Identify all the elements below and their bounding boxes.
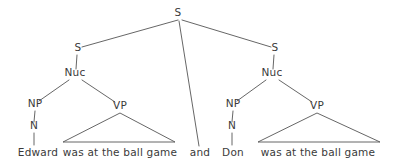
node-right-np: NP xyxy=(226,97,241,109)
node-left-nuc: Nuc xyxy=(65,66,86,78)
right-vp-triangle xyxy=(258,113,380,142)
edge-root-to-left-s xyxy=(82,20,178,47)
terminal-left-subject: Edward xyxy=(18,146,58,158)
edge-right-nuc-to-np xyxy=(237,80,266,101)
terminal-right-subject: Don xyxy=(222,146,244,158)
node-right-vp: VP xyxy=(310,99,324,111)
terminal-left-predicate: was at the ball game xyxy=(63,146,177,158)
node-right-n: N xyxy=(228,119,236,131)
node-left-vp: VP xyxy=(113,99,127,111)
edge-right-nuc-to-vp xyxy=(279,80,312,102)
edge-root-to-conjunction xyxy=(179,21,199,146)
edge-left-nuc-to-vp xyxy=(82,80,115,102)
node-left-s: S xyxy=(75,41,82,53)
edge-root-to-right-s xyxy=(182,20,271,47)
left-vp-triangle xyxy=(63,113,175,142)
node-root-s: S xyxy=(175,6,182,18)
node-right-s: S xyxy=(272,41,279,53)
terminal-right-predicate: was at the ball game xyxy=(261,146,375,158)
edge-left-nuc-to-np xyxy=(39,80,69,101)
terminal-conjunction: and xyxy=(190,146,210,158)
node-left-np: NP xyxy=(28,97,43,109)
syntax-tree-figure: S S Nuc NP N VP S Nuc NP N VP Edward was… xyxy=(0,0,400,168)
node-right-nuc: Nuc xyxy=(262,66,283,78)
syntax-tree-canvas: S S Nuc NP N VP S Nuc NP N VP Edward was… xyxy=(0,0,400,168)
node-left-n: N xyxy=(30,119,38,131)
